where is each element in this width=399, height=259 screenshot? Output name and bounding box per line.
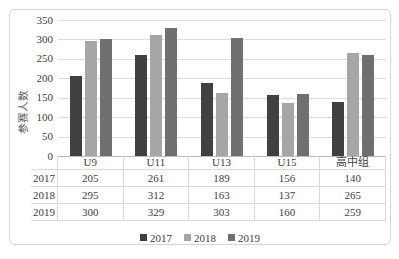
- bar-2018-U9: [85, 41, 97, 156]
- y-tick-label-100: 100: [10, 112, 53, 123]
- bar-group-高中组: [320, 20, 386, 156]
- table-cell-2017-U9: 205: [58, 170, 124, 187]
- bar-group-U11: [124, 20, 190, 156]
- bar-group-U15: [255, 20, 321, 156]
- y-tick-label-150: 150: [10, 92, 53, 103]
- bar-2019-U11: [165, 28, 177, 156]
- bar-2017-U9: [70, 76, 82, 156]
- legend-label-2017: 2017: [150, 232, 172, 244]
- legend-item-2017: 2017: [140, 232, 172, 244]
- bar-2017-U11: [135, 55, 147, 156]
- y-tick-label-200: 200: [10, 73, 53, 84]
- bar-2018-U13: [216, 93, 228, 156]
- table-cell-2018-U9: 295: [58, 187, 124, 204]
- table-cell-2018-高中组: 265: [320, 187, 386, 204]
- table-row-header-2018: 2018: [31, 187, 58, 204]
- legend-label-2018: 2018: [194, 232, 216, 244]
- table-header-U13: U13: [189, 156, 255, 170]
- bar-2017-U15: [267, 95, 279, 156]
- y-tick-label-350: 350: [10, 15, 53, 26]
- table-corner-cell: [31, 156, 58, 170]
- table-row-header-2017: 2017: [31, 170, 58, 187]
- table-row-header-2019: 2019: [31, 204, 58, 221]
- y-tick-label-250: 250: [10, 53, 53, 64]
- legend-swatch-2019: [228, 234, 235, 241]
- table-cell-2018-U15: 137: [255, 187, 321, 204]
- legend-swatch-2018: [184, 234, 191, 241]
- bar-2017-U13: [201, 83, 213, 156]
- bar-group-U9: [58, 20, 124, 156]
- bar-2019-高中组: [362, 55, 374, 156]
- data-table: U9U11U13U15高中组20172052611891561402018295…: [31, 156, 386, 221]
- y-tick-label-50: 50: [10, 131, 53, 142]
- chart-frame: 参赛人数 350300250200150100500 U9U11U13U15高中…: [9, 9, 391, 245]
- table-cell-2018-U11: 312: [124, 187, 190, 204]
- table-header-U11: U11: [124, 156, 190, 170]
- legend-item-2019: 2019: [228, 232, 260, 244]
- plot-area: [58, 20, 386, 156]
- bar-2018-U15: [282, 103, 294, 156]
- bar-2017-高中组: [332, 102, 344, 156]
- table-cell-2017-高中组: 140: [320, 170, 386, 187]
- table-cell-2019-U13: 303: [189, 204, 255, 221]
- legend-item-2018: 2018: [184, 232, 216, 244]
- bar-2019-U9: [100, 39, 112, 156]
- table-cell-2019-高中组: 259: [320, 204, 386, 221]
- bar-group-U13: [189, 20, 255, 156]
- y-tick-label-300: 300: [10, 34, 53, 45]
- table-cell-2018-U13: 163: [189, 187, 255, 204]
- table-cell-2019-U9: 300: [58, 204, 124, 221]
- legend: 201720182019: [10, 231, 390, 244]
- table-cell-2017-U13: 189: [189, 170, 255, 187]
- table-cell-2017-U11: 261: [124, 170, 190, 187]
- table-header-高中组: 高中组: [320, 156, 386, 170]
- table-cell-2017-U15: 156: [255, 170, 321, 187]
- bar-2018-U11: [150, 35, 162, 156]
- legend-swatch-2017: [140, 234, 147, 241]
- table-header-U9: U9: [58, 156, 124, 170]
- table-cell-2019-U11: 329: [124, 204, 190, 221]
- legend-label-2019: 2019: [238, 232, 260, 244]
- bar-groups: [58, 20, 386, 156]
- bar-2018-高中组: [347, 53, 359, 156]
- bar-2019-U15: [297, 94, 309, 156]
- table-cell-2019-U15: 160: [255, 204, 321, 221]
- table-header-U15: U15: [255, 156, 321, 170]
- bar-2019-U13: [231, 38, 243, 156]
